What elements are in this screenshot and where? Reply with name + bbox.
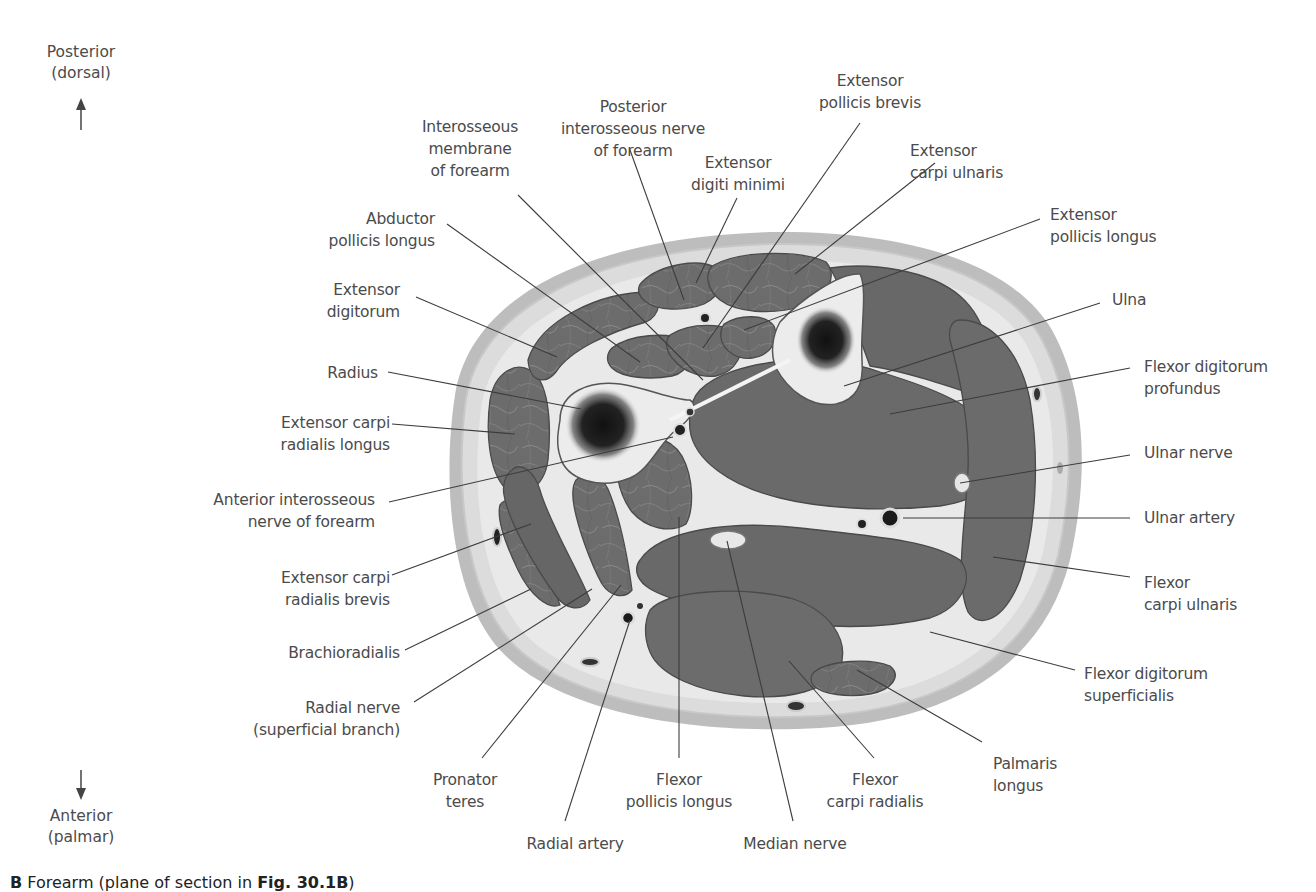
label-extensor-pollicis-brevis: Extensor pollicis brevis bbox=[800, 70, 940, 114]
radial-vein-vessel bbox=[637, 603, 643, 609]
label-brachioradialis: Brachioradialis bbox=[250, 642, 400, 664]
label-radius: Radius bbox=[310, 362, 378, 384]
label-abductor-pollicis-longus: Abductor pollicis longus bbox=[300, 208, 435, 252]
label-flexor-digitorum-superficialis: Flexor digitorum superficialis bbox=[1084, 663, 1244, 707]
label-extensor-digitorum: Extensor digitorum bbox=[300, 279, 400, 323]
label-anterior-interosseous-nerve: Anterior interosseous nerve of forearm bbox=[180, 489, 375, 533]
subcutaneous-vein-4 bbox=[1033, 387, 1041, 401]
caption-ref: Fig. 30.1B bbox=[257, 873, 348, 892]
caption-prefix: B bbox=[10, 873, 22, 892]
posterior-interosseous-vessel bbox=[700, 313, 710, 323]
label-flexor-pollicis-longus: Flexor pollicis longus bbox=[609, 769, 749, 813]
subcutaneous-vein-2 bbox=[581, 658, 599, 666]
label-radial-nerve: Radial nerve (superficial branch) bbox=[215, 697, 400, 741]
label-median-nerve: Median nerve bbox=[730, 833, 860, 855]
anterior-interosseous-vessel-2 bbox=[686, 408, 694, 416]
orientation-arrows bbox=[76, 98, 86, 800]
anterior-interosseous-vessel bbox=[674, 424, 686, 436]
ulna-marrow bbox=[796, 306, 856, 374]
label-extensor-pollicis-longus: Extensor pollicis longus bbox=[1050, 204, 1210, 248]
orientation-top-label: Posterior (dorsal) bbox=[30, 42, 132, 84]
subcutaneous-vein-3 bbox=[787, 701, 805, 711]
ulnar-vein-vessel bbox=[857, 519, 867, 529]
label-flexor-carpi-ulnaris: Flexor carpi ulnaris bbox=[1144, 572, 1274, 616]
caption-text: Forearm (plane of section in bbox=[27, 873, 257, 892]
radius-marrow bbox=[565, 387, 641, 463]
label-extensor-carpi-ulnaris: Extensor carpi ulnaris bbox=[910, 140, 1050, 184]
label-flexor-carpi-radialis: Flexor carpi radialis bbox=[810, 769, 940, 813]
ulnar-artery-vessel bbox=[881, 509, 899, 527]
label-interosseous-membrane: Interosseous membrane of forearm bbox=[400, 116, 540, 182]
muscle-palmaris-longus bbox=[811, 661, 895, 695]
label-extensor-carpi-radialis-longus: Extensor carpi radialis longus bbox=[250, 412, 390, 456]
label-radial-artery: Radial artery bbox=[510, 833, 640, 855]
label-extensor-carpi-radialis-brevis: Extensor carpi radialis brevis bbox=[250, 567, 390, 611]
label-pronator-teres: Pronator teres bbox=[420, 769, 510, 813]
caption-suffix: ) bbox=[348, 873, 354, 892]
subcutaneous-vein-5 bbox=[1057, 462, 1063, 474]
label-ulna: Ulna bbox=[1112, 289, 1172, 311]
label-ulnar-artery: Ulnar artery bbox=[1144, 507, 1264, 529]
label-extensor-digiti-minimi: Extensor digiti minimi bbox=[673, 152, 803, 196]
posterior-arrowhead-icon bbox=[76, 98, 86, 110]
orientation-bottom-label: Anterior (palmar) bbox=[30, 806, 132, 848]
label-flexor-digitorum-profundus: Flexor digitorum profundus bbox=[1144, 356, 1304, 400]
anterior-arrowhead-icon bbox=[76, 788, 86, 800]
muscle-epl bbox=[721, 317, 776, 359]
radial-artery-vessel bbox=[622, 612, 634, 624]
figure-caption: B Forearm (plane of section in Fig. 30.1… bbox=[10, 873, 355, 892]
label-palmaris-longus: Palmaris longus bbox=[993, 753, 1093, 797]
label-ulnar-nerve: Ulnar nerve bbox=[1144, 442, 1254, 464]
